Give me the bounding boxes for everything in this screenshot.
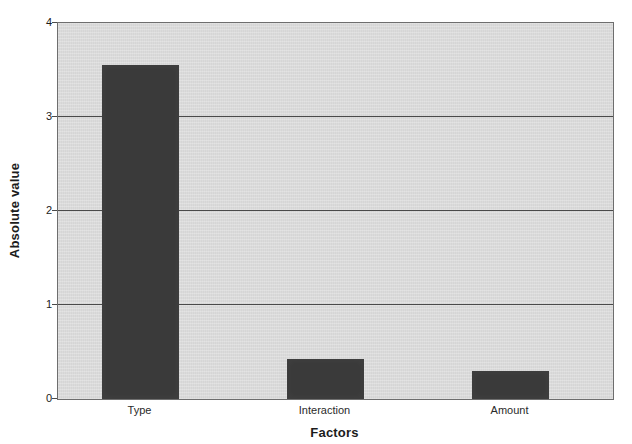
x-tick-label: Amount bbox=[491, 404, 529, 416]
y-tick-label: 2 bbox=[8, 204, 52, 216]
plot-area bbox=[57, 22, 614, 400]
x-tick-label: Type bbox=[128, 404, 152, 416]
bar bbox=[102, 65, 179, 399]
bar-chart-figure: Absolute value 01234 TypeInteractionAmou… bbox=[0, 0, 632, 444]
y-tick-label: 0 bbox=[8, 392, 52, 404]
y-tick-label: 1 bbox=[8, 298, 52, 310]
y-tick-label: 4 bbox=[8, 16, 52, 28]
x-axis-title: Factors bbox=[57, 425, 612, 440]
y-axis-tick-group: 01234 bbox=[0, 22, 52, 398]
y-tick-label: 3 bbox=[8, 110, 52, 122]
bar bbox=[472, 371, 549, 399]
x-tick-label: Interaction bbox=[299, 404, 350, 416]
bar bbox=[287, 359, 364, 399]
